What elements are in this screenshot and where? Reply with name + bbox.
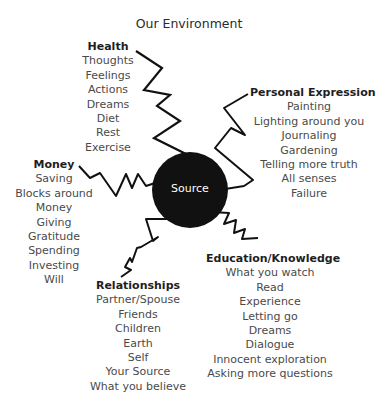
group-item: What you watch <box>206 266 334 280</box>
group-item: Letting go <box>206 310 334 324</box>
group-item: Will <box>14 273 94 287</box>
group-item: Earth <box>86 337 190 351</box>
source-label: Source <box>152 182 228 195</box>
group-item: Exercise <box>68 141 148 155</box>
group-item: Friends <box>86 308 190 322</box>
group-heading: Relationships <box>86 279 190 293</box>
group-item: Money <box>14 201 94 215</box>
group-item: Saving <box>14 172 94 186</box>
group-item: Telling more truth <box>250 158 368 172</box>
group-money: Money Saving Blocks around Money Giving … <box>14 158 94 288</box>
diagram-title: Our Environment <box>0 16 378 31</box>
group-relationships: Relationships Partner/Spouse Friends Chi… <box>86 279 190 394</box>
group-item: Gratitude <box>14 230 94 244</box>
group-item: Innocent exploration <box>206 353 334 367</box>
group-item: Dreams <box>68 98 148 112</box>
group-item: Feelings <box>68 69 148 83</box>
group-item: Experience <box>206 295 334 309</box>
group-item: Blocks around <box>14 187 94 201</box>
group-heading: Money <box>14 158 94 172</box>
group-item: All senses <box>250 172 368 186</box>
group-education-knowledge: Education/Knowledge What you watch Read … <box>206 252 334 382</box>
group-item: Lighting around you <box>250 115 368 129</box>
group-item: Gardening <box>250 144 368 158</box>
group-item: Children <box>86 322 190 336</box>
group-item: Asking more questions <box>206 367 334 381</box>
group-item: Read <box>206 281 334 295</box>
group-item: Self <box>86 351 190 365</box>
group-item: Partner/Spouse <box>86 293 190 307</box>
group-item: Investing <box>14 259 94 273</box>
group-item: Spending <box>14 244 94 258</box>
group-item: Thoughts <box>68 54 148 68</box>
group-heading: Education/Knowledge <box>206 252 334 266</box>
group-item: Diet <box>68 112 148 126</box>
group-heading: Health <box>68 40 148 54</box>
diagram-canvas: Our Environment Source Health Thoughts F… <box>0 0 378 413</box>
group-item: What you believe <box>86 380 190 394</box>
group-item: Your Source <box>86 365 190 379</box>
group-item: Failure <box>250 187 368 201</box>
group-item: Actions <box>68 83 148 97</box>
group-heading: Personal Expression <box>250 86 368 100</box>
group-item: Dialogue <box>206 338 334 352</box>
group-item: Rest <box>68 126 148 140</box>
group-item: Journaling <box>250 129 368 143</box>
group-item: Giving <box>14 216 94 230</box>
relationships-connector <box>121 219 168 277</box>
group-item: Dreams <box>206 324 334 338</box>
group-personal-expression: Personal Expression Painting Lighting ar… <box>250 86 368 201</box>
group-health: Health Thoughts Feelings Actions Dreams … <box>68 40 148 155</box>
group-item: Painting <box>250 100 368 114</box>
education-connector <box>212 212 258 239</box>
